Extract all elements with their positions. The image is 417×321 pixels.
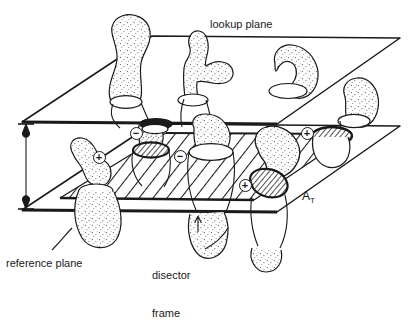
count-marker-plus-right: + (301, 127, 314, 140)
particle-branching (178, 31, 233, 127)
count-marker-plus-mid: + (239, 179, 252, 192)
area-label-symbol: A (302, 189, 310, 203)
count-marker-plus-left: + (93, 151, 106, 164)
particle-topleft (109, 15, 152, 128)
count-marker-minus-lower: − (174, 150, 187, 163)
particle-crescent (269, 45, 318, 99)
area-label-subscript: T (310, 196, 315, 205)
disector-frame-label-line1: disector (152, 269, 191, 282)
disector-frame-label-line2: frame (152, 307, 191, 320)
disector-height-arrow (18, 124, 34, 209)
area-label: AT (302, 190, 315, 208)
lookup-plane-label: lookup plane (210, 18, 272, 31)
count-marker-minus-upper: − (130, 127, 143, 140)
leader-reference-plane (52, 228, 72, 250)
disector-frame-label: disector frame (152, 244, 191, 321)
particle-counted-2 (250, 126, 299, 272)
particle-counted-3 (312, 127, 352, 168)
reference-plane-label: reference plane (6, 257, 82, 270)
particle-minus-upper (140, 119, 172, 134)
